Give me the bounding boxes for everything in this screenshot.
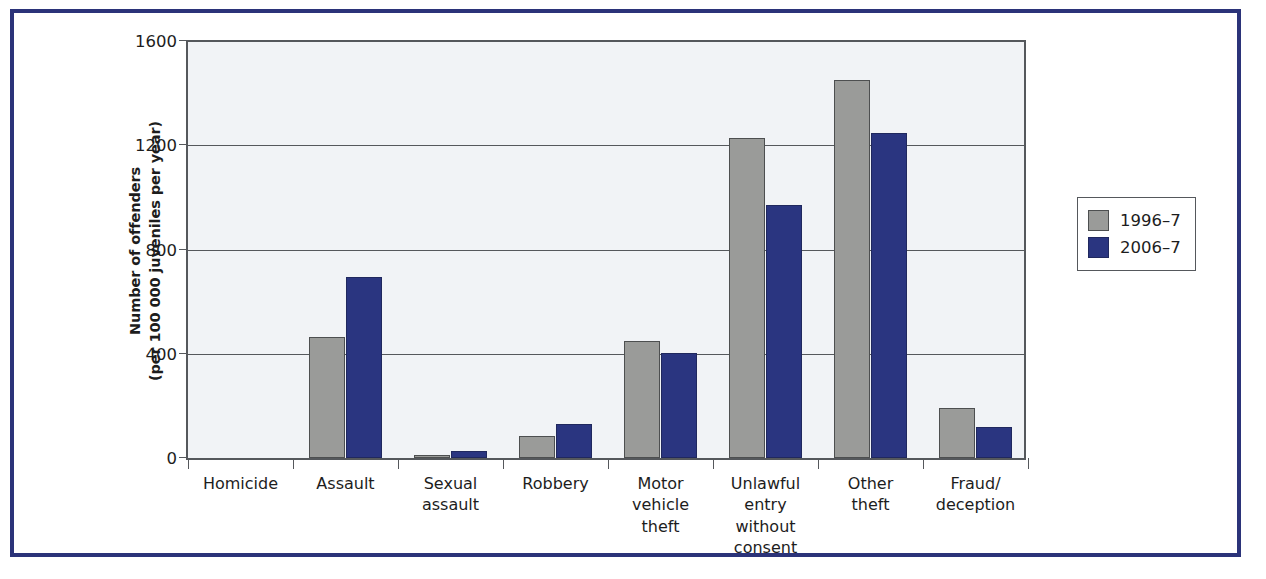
bar[interactable] (556, 424, 592, 458)
x-label-line: consent (696, 537, 836, 558)
y-tick-label-1200: 1200 (135, 136, 177, 155)
bar[interactable] (309, 337, 345, 458)
legend-item[interactable]: 1996–7 (1088, 207, 1181, 234)
bar[interactable] (976, 427, 1012, 459)
bar-group (608, 41, 713, 458)
x-label-line: deception (906, 494, 1046, 515)
x-axis-label: Fraud/deception (906, 473, 1046, 516)
y-tick-mark-400 (179, 353, 188, 354)
y-tick-mark-1600 (179, 40, 188, 41)
plot-area: Number of offenders (per 100 000 juvenil… (186, 40, 1026, 460)
bar[interactable] (661, 353, 697, 458)
y-tick-label-800: 800 (146, 240, 178, 259)
bar-chart: Number of offenders (per 100 000 juvenil… (14, 13, 1245, 561)
y-tick-label-400: 400 (146, 344, 178, 363)
legend-label: 1996–7 (1120, 211, 1181, 230)
x-tick-mark (713, 458, 714, 469)
bar[interactable] (346, 277, 382, 458)
y-tick-label-0: 0 (167, 449, 178, 468)
bar[interactable] (519, 436, 555, 458)
x-tick-mark (188, 458, 189, 469)
bar[interactable] (871, 133, 907, 459)
legend-label: 2006–7 (1120, 238, 1181, 257)
x-label-line: without (696, 516, 836, 537)
x-tick-mark (818, 458, 819, 469)
bar-group (188, 41, 293, 458)
bar-group (818, 41, 923, 458)
bar-group (923, 41, 1028, 458)
x-tick-mark (398, 458, 399, 469)
chart-legend: 1996–72006–7 (1077, 197, 1196, 271)
figure-frame: Number of offenders (per 100 000 juvenil… (10, 9, 1241, 557)
bar[interactable] (729, 138, 765, 458)
bar[interactable] (834, 80, 870, 458)
x-tick-mark (503, 458, 504, 469)
x-tick-mark (923, 458, 924, 469)
x-tick-mark (608, 458, 609, 469)
bar-group (713, 41, 818, 458)
y-tick-mark-800 (179, 249, 188, 250)
x-label-line: assault (381, 494, 521, 515)
series-1996-swatch (1088, 210, 1109, 231)
x-tick-mark (293, 458, 294, 469)
bar[interactable] (766, 205, 802, 458)
series-2006-swatch (1088, 237, 1109, 258)
y-tick-label-1600: 1600 (135, 32, 177, 51)
bar[interactable] (624, 341, 660, 458)
bar[interactable] (939, 408, 975, 458)
y-tick-mark-1200 (179, 144, 188, 145)
legend-item[interactable]: 2006–7 (1088, 234, 1181, 261)
bar-group (398, 41, 503, 458)
x-tick-mark (1028, 458, 1029, 469)
bar-group (503, 41, 608, 458)
bar-group (293, 41, 398, 458)
y-tick-mark-0 (179, 457, 188, 458)
x-label-line: Fraud/ (906, 473, 1046, 494)
bar[interactable] (451, 451, 487, 458)
bar[interactable] (414, 455, 450, 458)
